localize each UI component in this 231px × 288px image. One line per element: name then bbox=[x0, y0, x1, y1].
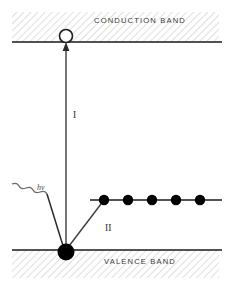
valence-band-label: VALENCE BAND bbox=[104, 257, 176, 266]
conduction-band-label: CONDUCTION BAND bbox=[94, 16, 186, 25]
defect-state-dot bbox=[123, 195, 133, 205]
transition-one-label: I bbox=[73, 110, 76, 120]
defect-state-dot bbox=[171, 195, 181, 205]
defect-state-dot bbox=[147, 195, 157, 205]
defect-state-dot bbox=[99, 195, 109, 205]
defect-state-dot bbox=[195, 195, 205, 205]
photon-energy-label: hν bbox=[37, 183, 45, 192]
hole-filled-circle bbox=[58, 244, 75, 261]
figure-background bbox=[0, 0, 231, 288]
transition-two-label: II bbox=[105, 223, 111, 233]
valence-band-region: VALENCE BAND bbox=[12, 250, 222, 278]
band-diagram-figure: CONDUCTION BAND VALENCE BAND I II bbox=[0, 0, 231, 288]
electron-open-circle bbox=[60, 30, 73, 43]
conduction-band-region: CONDUCTION BAND bbox=[12, 12, 222, 42]
